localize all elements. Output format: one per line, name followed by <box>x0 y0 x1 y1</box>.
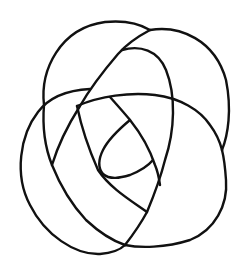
knot-diagram-canvas <box>0 0 243 275</box>
strand-left-loop <box>21 89 125 254</box>
strand-top-right-arc <box>150 29 229 150</box>
strand-eye-bottom <box>103 160 153 178</box>
strand-top-left-arc <box>44 21 150 105</box>
strand-eye-top <box>99 120 130 174</box>
knot-diagram <box>0 0 243 275</box>
strand-outer-left-lower <box>43 105 125 245</box>
strand-bottom-right-arc <box>125 150 226 247</box>
strand-middle-arc <box>77 94 222 150</box>
strand-inner-left-line <box>77 106 147 212</box>
